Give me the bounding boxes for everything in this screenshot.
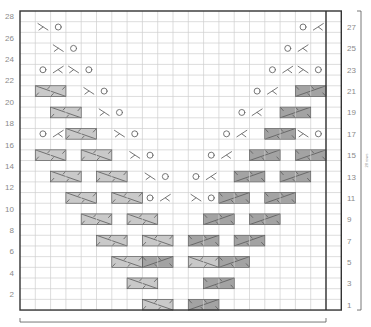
yarn-over-icon	[208, 152, 214, 158]
k2tog-decrease-icon	[252, 109, 262, 116]
yarn-over-icon	[132, 131, 138, 137]
row-label-right: 21	[347, 87, 356, 96]
knitting-chart: 2468101214161820222426281357911131517192…	[0, 0, 371, 327]
row-label-left: 2	[10, 290, 15, 299]
row-label-right: 11	[347, 194, 356, 203]
stitch-repeat-bracket	[20, 318, 326, 322]
yarn-over-icon	[147, 152, 153, 158]
yarn-over-icon	[40, 131, 46, 137]
ssk-decrease-icon	[69, 66, 79, 73]
yarn-over-icon	[285, 45, 291, 51]
row-label-left: 8	[10, 226, 15, 235]
yarn-over-icon	[162, 174, 168, 180]
row-label-left: 6	[10, 247, 15, 256]
yarn-over-icon	[208, 195, 214, 201]
chart-grid	[20, 11, 341, 310]
k2tog-decrease-icon	[160, 194, 170, 201]
row-label-right: 3	[347, 279, 352, 288]
row-label-left: 22	[5, 76, 14, 85]
yarn-over-icon	[71, 45, 77, 51]
yarn-over-icon	[239, 109, 245, 115]
row-label-right: 1	[347, 301, 352, 310]
row-label-left: 16	[5, 141, 14, 150]
row-label-right: 15	[347, 151, 356, 160]
yarn-over-icon	[86, 67, 92, 73]
row-label-left: 28	[5, 12, 14, 21]
row-label-left: 20	[5, 98, 14, 107]
ssk-decrease-icon	[298, 130, 308, 137]
row-label-right: 23	[347, 66, 356, 75]
yarn-over-icon	[254, 88, 260, 94]
yarn-over-icon	[315, 67, 321, 73]
row-repeat-note: 28 rows	[364, 154, 369, 168]
row-label-left: 12	[5, 183, 14, 192]
k2tog-decrease-icon	[267, 88, 277, 95]
row-label-right: 7	[347, 237, 352, 246]
row-label-right: 13	[347, 173, 356, 182]
ssk-decrease-icon	[298, 66, 308, 73]
row-label-right: 27	[347, 23, 356, 32]
yarn-over-icon	[147, 195, 153, 201]
row-label-left: 24	[5, 55, 14, 64]
row-label-left: 14	[5, 162, 14, 171]
ssk-decrease-icon	[114, 130, 124, 137]
row-label-right: 25	[347, 44, 356, 53]
ssk-decrease-icon	[84, 88, 94, 95]
row-label-left: 18	[5, 119, 14, 128]
k2tog-decrease-icon	[206, 173, 216, 180]
k2tog-decrease-icon	[313, 24, 323, 31]
k2tog-decrease-icon	[298, 45, 308, 52]
ssk-decrease-icon	[145, 173, 155, 180]
ssk-decrease-icon	[38, 24, 48, 31]
yarn-over-icon	[269, 67, 275, 73]
yarn-over-icon	[116, 109, 122, 115]
row-label-left: 10	[5, 205, 14, 214]
ssk-decrease-icon	[130, 152, 140, 159]
chart-cells	[35, 86, 326, 310]
k2tog-decrease-icon	[283, 66, 293, 73]
yarn-over-icon	[224, 131, 230, 137]
k2tog-decrease-icon	[222, 152, 232, 159]
yarn-over-icon	[40, 67, 46, 73]
row-label-left: 26	[5, 34, 14, 43]
yarn-over-icon	[193, 174, 199, 180]
yarn-over-icon	[315, 131, 321, 137]
row-label-right: 17	[347, 130, 356, 139]
row-label-right: 19	[347, 108, 356, 117]
ssk-decrease-icon	[191, 194, 201, 201]
k2tog-decrease-icon	[53, 66, 63, 73]
repeat-brackets: 28 rows	[20, 11, 369, 322]
row-label-right: 9	[347, 215, 352, 224]
ssk-decrease-icon	[53, 45, 63, 52]
row-label-right: 5	[347, 258, 352, 267]
row-repeat-bracket	[357, 11, 361, 310]
yarn-over-icon	[300, 24, 306, 30]
k2tog-decrease-icon	[237, 130, 247, 137]
ssk-decrease-icon	[99, 109, 109, 116]
yarn-over-icon	[101, 88, 107, 94]
row-label-left: 4	[10, 269, 15, 278]
yarn-over-icon	[55, 24, 61, 30]
row-labels: 2468101214161820222426281357911131517192…	[5, 12, 356, 309]
k2tog-decrease-icon	[53, 130, 63, 137]
